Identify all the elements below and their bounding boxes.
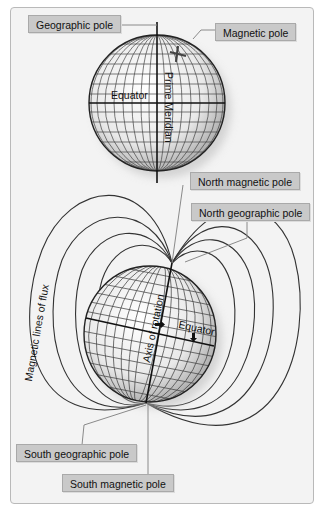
magnetic-pole-label: Magnetic pole [215, 23, 296, 41]
south-geographic-pole-leader [82, 405, 146, 445]
top-equator-label: Equator [111, 89, 148, 101]
prime-meridian-label: Prime Meridian [163, 72, 175, 143]
south-magnetic-pole-label: South magnetic pole [62, 474, 174, 492]
earth-magnetic-field-diagram [0, 0, 323, 510]
top-globe [80, 22, 240, 183]
north-magnetic-pole-leader [172, 185, 183, 263]
south-geographic-pole-label: South geographic pole [16, 444, 137, 462]
geographic-pole-label: Geographic pole [28, 15, 121, 33]
north-magnetic-pole-label: North magnetic pole [190, 172, 300, 190]
north-geographic-pole-leader [185, 222, 247, 262]
magnetic-pole-leader [193, 30, 215, 39]
north-geographic-pole-label: North geographic pole [191, 203, 310, 221]
